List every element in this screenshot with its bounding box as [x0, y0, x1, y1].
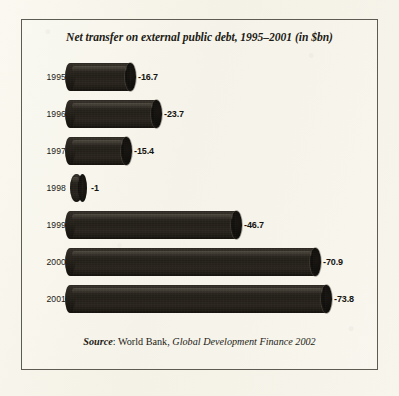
value-label-1997: -15.4 [134, 136, 154, 166]
bar-right-cap [125, 63, 136, 91]
source-note: Source: World Bank, Global Development F… [21, 336, 378, 347]
bar-body [70, 63, 131, 91]
year-label-1998: 1998 [30, 173, 66, 203]
value-label-2001: -73.8 [334, 284, 354, 314]
bar-right-cap [321, 285, 332, 313]
bar-2000 [70, 248, 316, 276]
bar-row: 2000-70.9 [0, 247, 399, 277]
bar-left-cap [65, 137, 75, 165]
bar-row: 1997-15.4 [0, 136, 399, 166]
bar-right-cap [121, 137, 132, 165]
bar-left-cap [65, 285, 75, 313]
bar-left-cap [65, 248, 75, 276]
bar-row: 1995-16.7 [0, 62, 399, 92]
year-label-2001: 2001 [30, 284, 66, 314]
year-label-1997: 1997 [30, 136, 66, 166]
bar-right-cap [151, 100, 162, 128]
bar-body [70, 248, 316, 276]
source-publication: Global Development Finance 2002 [172, 336, 315, 347]
value-label-1998: -1 [91, 173, 99, 203]
bar-right-cap [231, 211, 242, 239]
value-label-2000: -70.9 [323, 247, 343, 277]
year-label-2000: 2000 [30, 247, 66, 277]
bar-left-cap [65, 211, 75, 239]
bar-1998 [70, 174, 83, 202]
bar-body [70, 137, 127, 165]
bar-right-cap [78, 174, 87, 202]
bar-left-cap [65, 100, 75, 128]
bar-row: 2001-73.8 [0, 284, 399, 314]
source-organisation: World Bank, [118, 336, 172, 347]
bar-row: 1998-1 [0, 173, 399, 203]
bar-right-cap [310, 248, 321, 276]
source-label: Source [83, 336, 112, 347]
figure-page: Net transfer on external public debt, 19… [0, 0, 399, 396]
bar-body [70, 285, 327, 313]
bar-1995 [70, 63, 131, 91]
bar-row: 1996-23.7 [0, 99, 399, 129]
bar-row: 1999-46.7 [0, 210, 399, 240]
year-label-1996: 1996 [30, 99, 66, 129]
bar-1997 [70, 137, 127, 165]
value-label-1999: -46.7 [244, 210, 264, 240]
value-label-1995: -16.7 [138, 62, 158, 92]
bar-1996 [70, 100, 157, 128]
value-label-1996: -23.7 [164, 99, 184, 129]
bar-left-cap [65, 63, 75, 91]
bar-body [70, 100, 157, 128]
year-label-1995: 1995 [30, 62, 66, 92]
bar-2001 [70, 285, 327, 313]
bar-1999 [70, 211, 237, 239]
year-label-1999: 1999 [30, 210, 66, 240]
bar-body [70, 211, 237, 239]
